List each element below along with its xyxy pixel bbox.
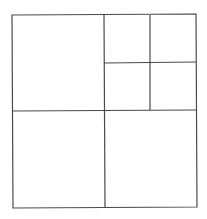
horizontal-sub-divider bbox=[104, 62, 196, 63]
horizontal-main-divider bbox=[13, 110, 196, 111]
subdivided-square-diagram bbox=[0, 0, 207, 219]
